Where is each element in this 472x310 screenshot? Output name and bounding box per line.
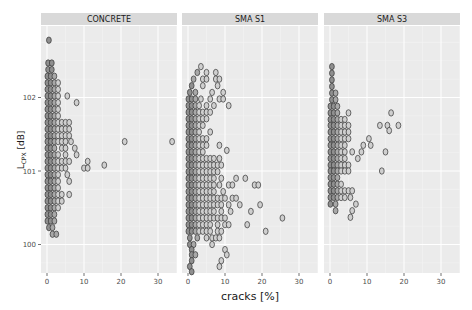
data-point — [170, 138, 175, 144]
data-point — [258, 202, 263, 208]
data-point — [193, 89, 198, 95]
data-point — [204, 142, 209, 148]
data-point — [69, 138, 74, 144]
facet-strip-label: SMA S1 — [235, 15, 265, 24]
data-point — [208, 109, 213, 115]
data-point — [67, 178, 72, 184]
x-tick-label: 0 — [45, 278, 49, 286]
data-point — [217, 142, 222, 148]
data-point — [215, 169, 220, 175]
data-point — [245, 222, 250, 228]
data-point — [208, 129, 213, 135]
data-point — [197, 129, 202, 135]
data-point — [226, 102, 231, 108]
data-point — [350, 188, 355, 194]
data-point — [224, 252, 229, 258]
data-point — [219, 175, 224, 181]
data-point — [221, 89, 226, 95]
data-point — [330, 77, 335, 83]
x-tick-label: 10 — [80, 278, 89, 286]
data-point — [85, 158, 90, 164]
data-point — [59, 191, 64, 197]
y-tick-label: 102 — [23, 94, 36, 102]
data-point — [52, 218, 57, 224]
data-point — [223, 195, 228, 201]
data-point — [56, 99, 61, 105]
data-point — [224, 147, 229, 153]
data-point — [328, 201, 333, 207]
data-point — [330, 83, 335, 89]
data-point — [74, 99, 79, 105]
data-point — [187, 89, 192, 95]
data-point — [67, 191, 72, 197]
data-point — [226, 202, 231, 208]
data-point — [56, 80, 61, 86]
x-tick-label: 30 — [154, 278, 163, 286]
data-point — [221, 188, 226, 194]
data-point — [189, 258, 194, 264]
data-point — [243, 175, 248, 181]
x-axis-title: cracks [%] — [221, 290, 279, 303]
x-tick-label: 0 — [328, 278, 332, 286]
y-axis-title: LCPX [dB] — [16, 131, 27, 170]
data-point — [212, 175, 217, 181]
data-point — [200, 149, 205, 155]
data-point — [56, 86, 61, 92]
data-point — [208, 222, 213, 228]
y-axis: 100101102 — [23, 94, 41, 249]
data-point — [217, 263, 222, 269]
data-point — [56, 185, 61, 191]
data-point — [49, 66, 54, 72]
data-point — [189, 269, 194, 275]
data-point — [187, 235, 192, 241]
data-point — [219, 228, 224, 234]
x-tick-label: 20 — [117, 278, 126, 286]
data-point — [387, 127, 392, 133]
data-point — [56, 178, 61, 184]
data-point — [193, 252, 198, 258]
x-tick-label: 30 — [295, 278, 304, 286]
data-point — [219, 258, 224, 264]
data-point — [354, 201, 359, 207]
data-point — [333, 90, 338, 96]
data-point — [65, 93, 70, 99]
data-point — [280, 215, 285, 221]
data-point — [333, 97, 338, 103]
panel-sma-s3: SMA S30102030 — [324, 13, 460, 286]
data-point — [223, 215, 228, 221]
data-point — [346, 122, 351, 128]
data-point — [67, 119, 72, 125]
x-tick-label: 20 — [400, 278, 409, 286]
data-point — [65, 172, 70, 178]
data-point — [335, 103, 340, 109]
data-point — [342, 155, 347, 161]
x-tick-label: 30 — [437, 278, 446, 286]
data-point — [389, 110, 394, 116]
data-point — [63, 152, 68, 158]
data-point — [350, 208, 355, 214]
data-point — [355, 155, 360, 161]
y-axis-title-unit: [dB] — [16, 131, 26, 153]
data-point — [47, 37, 52, 43]
data-point — [359, 149, 364, 155]
data-point — [195, 235, 200, 241]
data-point — [234, 195, 239, 201]
data-point — [346, 162, 351, 168]
data-point — [346, 129, 351, 135]
data-point — [210, 241, 215, 247]
data-point — [204, 116, 209, 122]
data-point — [56, 172, 61, 178]
x-tick-label: 10 — [221, 278, 230, 286]
data-point — [208, 228, 213, 234]
data-point — [217, 182, 222, 188]
data-point — [204, 76, 209, 82]
data-point — [342, 116, 347, 122]
data-point — [191, 76, 196, 82]
data-point — [197, 102, 202, 108]
data-point — [56, 152, 61, 158]
data-point — [215, 222, 220, 228]
data-point — [50, 224, 55, 230]
data-point — [52, 145, 57, 151]
data-point — [122, 138, 127, 144]
data-point — [63, 165, 68, 171]
